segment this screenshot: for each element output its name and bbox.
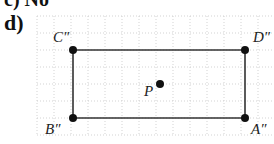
point-D-marker	[241, 46, 249, 54]
grid-diagram: C″D″A″B″P	[0, 0, 274, 144]
point-P-label: P	[143, 83, 153, 99]
points: C″D″A″B″P	[45, 29, 271, 137]
point-C-marker	[69, 46, 77, 54]
point-C-label: C″	[53, 29, 70, 45]
point-A-marker	[241, 114, 249, 122]
point-B-label: B″	[45, 121, 61, 137]
point-D-label: D″	[252, 29, 271, 45]
point-P-marker	[156, 80, 164, 88]
point-A-label: A″	[250, 121, 267, 137]
point-B-marker	[69, 114, 77, 122]
